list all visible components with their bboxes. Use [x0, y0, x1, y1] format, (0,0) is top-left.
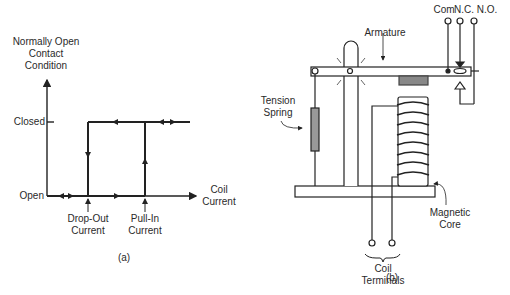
dropout-label: Drop-Out Current [58, 213, 118, 237]
pivot-post [344, 41, 358, 186]
nc-label: N.C. [452, 4, 476, 16]
y-axis-label: Normally Open Contact Condition [6, 36, 86, 72]
hysteresis-arrows [58, 119, 176, 204]
hysteresis-chart [47, 80, 196, 212]
caption-a: (a) [110, 252, 138, 264]
caption-b: (b) [378, 272, 406, 284]
armature-plate [399, 76, 428, 85]
tension-spring [311, 108, 319, 151]
base [295, 186, 435, 197]
no-label: N.O. [474, 4, 500, 16]
closed-label: Closed [0, 116, 45, 128]
pullin-label: Pull-In Current [115, 213, 175, 237]
spring-label: Tension Spring [256, 95, 300, 119]
core-label: Magnetic Core [425, 207, 475, 231]
armature-label: Armature [360, 27, 410, 39]
x-axis-label: Coil Current [198, 184, 240, 208]
open-label: Open [0, 190, 44, 202]
